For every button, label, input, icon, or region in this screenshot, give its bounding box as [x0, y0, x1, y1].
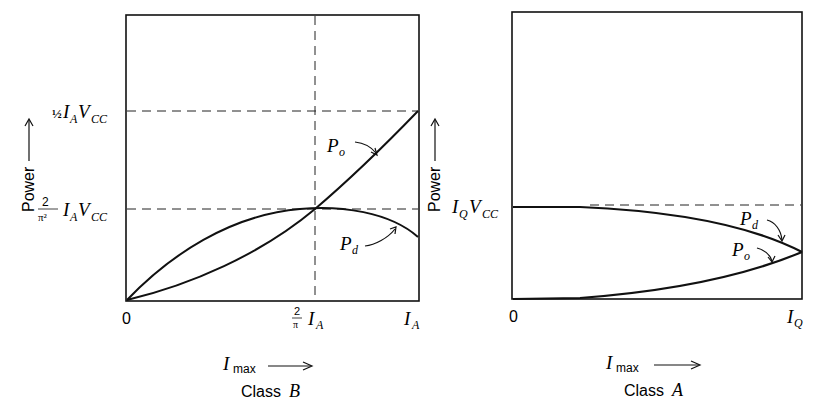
class-b-imax-i: I — [222, 353, 231, 374]
class-b-2pi-i: I — [307, 308, 316, 329]
class-b-po-arrow-icon — [355, 142, 376, 153]
class-b-2pi-num: 2 — [294, 305, 300, 317]
class-b-2pi2-v: V — [78, 199, 92, 220]
class-b-x-tick-zero: 0 — [122, 310, 131, 327]
class-a-caption: Class A — [624, 380, 684, 400]
class-b-2pi2-a: A — [69, 210, 78, 224]
class-b-y-tick-half: ½ I A V CC — [52, 101, 108, 126]
class-a-caption-letter: A — [671, 380, 684, 400]
class-a-pd-curve — [513, 207, 802, 252]
class-a-chart: Power I Q V CC 0 I Q I max Class A — [426, 12, 803, 400]
class-a-po-sub: o — [744, 249, 750, 263]
class-b-pd-label: P d — [339, 233, 359, 257]
class-b-half-frac: ½ — [52, 106, 62, 121]
class-a-y-tick-iqvcc: I Q V CC — [451, 196, 499, 221]
class-b-half-v: V — [78, 101, 92, 122]
class-a-power-text: Power — [426, 166, 443, 212]
class-b-po-p: P — [326, 135, 339, 156]
class-b-plot-frame — [126, 15, 419, 301]
class-a-pd-p: P — [739, 208, 752, 229]
class-a-po-curve — [513, 252, 802, 299]
class-b-half-cc: CC — [91, 112, 108, 126]
class-b-y-tick-2pi2: 2 π² I A V CC — [38, 195, 108, 224]
class-a-iqx-q: Q — [794, 316, 803, 330]
class-b-caption-letter: B — [289, 381, 300, 401]
class-b-y-axis-label: Power — [20, 119, 37, 212]
class-a-x-axis-label: I max — [605, 352, 700, 375]
class-a-caption-prefix: Class — [624, 382, 664, 399]
class-b-po-curve — [127, 111, 418, 300]
class-b-2pi2-den: π² — [38, 211, 48, 223]
class-a-y-axis-label: Power — [426, 119, 443, 212]
class-b-chart: Power ½ I A V CC 2 π² I A V CC 0 2 π — [20, 15, 420, 401]
class-b-pd-p: P — [339, 233, 352, 254]
class-b-x-tick-ia: I A — [403, 308, 420, 332]
class-b-2pi2-num: 2 — [42, 195, 49, 209]
class-a-iq-cc: CC — [482, 207, 499, 221]
class-b-pd-curve — [127, 208, 418, 300]
class-a-x-tick-zero: 0 — [509, 308, 518, 325]
class-a-plot-frame — [512, 12, 802, 299]
class-a-pd-label: P d — [739, 208, 759, 232]
class-a-po-p: P — [731, 239, 744, 260]
class-b-po-label: P o — [326, 135, 345, 159]
class-b-imax-sub: max — [233, 362, 256, 376]
class-a-po-label: P o — [731, 239, 750, 263]
class-a-imax-sub: max — [616, 361, 639, 375]
class-a-imax-i: I — [605, 352, 614, 373]
class-b-power-text: Power — [20, 166, 37, 212]
class-b-ia-a: A — [411, 318, 420, 332]
class-b-pd-sub: d — [352, 243, 359, 257]
class-b-2pi2-cc: CC — [91, 210, 108, 224]
class-b-pd-arrow-icon — [365, 229, 395, 246]
class-b-caption: Class B — [241, 381, 300, 401]
class-b-caption-prefix: Class — [241, 383, 281, 400]
class-b-x-tick-2pi-ia: 2 π I A — [292, 305, 324, 332]
class-b-2pi-den: π — [293, 319, 298, 330]
class-a-x-tick-iq: I Q — [786, 306, 803, 330]
class-b-po-sub: o — [339, 145, 345, 159]
class-a-iq-q: Q — [459, 207, 468, 221]
class-b-2pi-a: A — [315, 318, 324, 332]
class-b-half-a: A — [69, 112, 78, 126]
class-b-ia-i: I — [403, 308, 412, 329]
class-b-x-axis-label: I max — [222, 353, 312, 376]
class-a-iq-v: V — [469, 196, 483, 217]
class-a-pd-sub: d — [752, 218, 759, 232]
